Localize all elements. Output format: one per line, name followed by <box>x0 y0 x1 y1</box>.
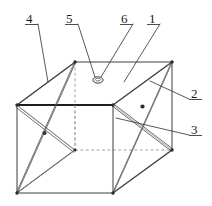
leader-line-5 <box>78 24 95 77</box>
top-brace-rod-a <box>18 61 76 104</box>
callout-label-6: 6 <box>121 12 128 25</box>
right-panel-line-2 <box>113 62 172 193</box>
callout-label-5: 5 <box>66 12 73 25</box>
node-top-front-right <box>111 103 114 106</box>
node-bottom-back-right <box>170 148 173 151</box>
right-brace-2b <box>112 151 171 194</box>
technical-drawing <box>0 0 212 206</box>
left-panel-line-1 <box>17 105 75 150</box>
lifting-ring <box>93 77 103 83</box>
right-brace-node <box>140 104 144 108</box>
node-top-front-left <box>15 103 18 106</box>
leader-line-6 <box>101 24 133 77</box>
leader-line-4 <box>38 24 48 82</box>
top-face-outline <box>17 62 172 105</box>
callout-label-3: 3 <box>191 123 198 136</box>
left-long-diag-b <box>16 63 74 193</box>
leader-line-3 <box>116 118 189 135</box>
node-bottom-front-left <box>15 191 18 194</box>
callout-label-2: 2 <box>191 87 198 100</box>
node-top-back-right <box>170 60 173 63</box>
left-long-diag-a <box>18 62 76 192</box>
leader-line-1 <box>124 24 160 82</box>
left-face-bracing <box>16 105 76 194</box>
callout-label-4: 4 <box>26 12 33 25</box>
node-bottom-back-left <box>74 149 77 152</box>
left-face-panel-lines <box>17 105 75 193</box>
lifting-ring-inner-ellipse <box>96 78 101 81</box>
node-bottom-front-right <box>111 191 114 194</box>
right-brace-1a <box>114 61 173 104</box>
node-top-back-left <box>73 60 76 63</box>
right-face-panel-lines <box>113 62 172 193</box>
callout-label-1: 1 <box>149 12 156 25</box>
